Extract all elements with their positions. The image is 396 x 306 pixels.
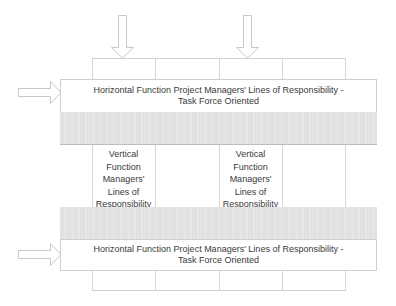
down-arrow-icon	[112, 16, 134, 59]
vertical-function-label-1: Vertical Function Managers' Lines of Res…	[92, 148, 155, 211]
box-text-line2: Task Force Oriented	[178, 255, 259, 266]
shaded-band-top	[60, 112, 377, 145]
box-text-line2: Task Force Oriented	[178, 96, 259, 107]
down-arrow-icon	[237, 16, 259, 59]
horizontal-responsibility-box-top: Horizontal Function Project Managers' Li…	[60, 79, 377, 113]
shaded-band-bottom	[60, 207, 377, 240]
vertical-function-label-2: Vertical Function Managers' Lines of Res…	[219, 148, 282, 211]
box-text-line1: Horizontal Function Project Managers' Li…	[94, 85, 344, 96]
right-arrow-icon	[19, 82, 62, 104]
right-arrow-icon	[19, 244, 62, 266]
horizontal-responsibility-box-bottom: Horizontal Function Project Managers' Li…	[60, 239, 377, 271]
box-text-line1: Horizontal Function Project Managers' Li…	[94, 244, 344, 255]
